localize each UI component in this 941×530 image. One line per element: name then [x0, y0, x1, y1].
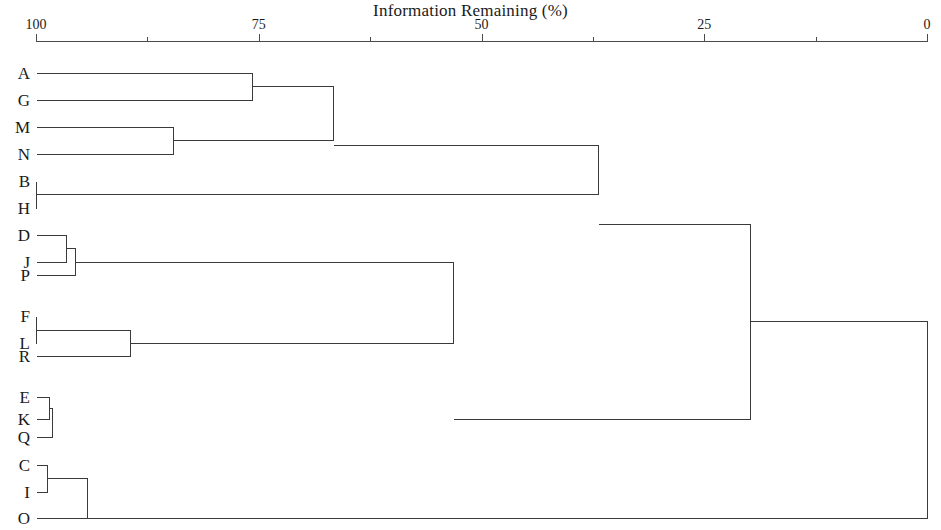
leaf-label-r: R: [19, 348, 30, 365]
axis-tick-label: 75: [252, 18, 266, 32]
leaf-label-f: F: [21, 308, 30, 325]
leaf-label-m: M: [15, 119, 30, 136]
dendrogram-links-layer: [0, 0, 941, 530]
leaf-label-a: A: [18, 65, 30, 82]
leaf-label-n: N: [18, 146, 30, 163]
leaf-label-c: C: [19, 457, 30, 474]
leaf-label-d: D: [18, 227, 30, 244]
leaf-label-k: K: [18, 411, 30, 428]
leaf-label-b: B: [19, 173, 30, 190]
leaf-label-p: P: [21, 267, 30, 284]
leaf-label-q: Q: [18, 429, 30, 446]
axis-tick-label: 0: [924, 18, 931, 32]
axis-tick-label: 100: [26, 18, 47, 32]
dendrogram-figure: Information Remaining (%) 1007550250 AGM…: [0, 0, 941, 530]
axis-tick-label: 25: [697, 18, 711, 32]
axis-tick-label: 50: [475, 18, 489, 32]
leaf-label-h: H: [18, 200, 30, 217]
leaf-label-i: I: [24, 484, 30, 501]
leaf-label-g: G: [18, 92, 30, 109]
leaf-label-o: O: [18, 510, 30, 527]
leaf-label-e: E: [20, 389, 30, 406]
